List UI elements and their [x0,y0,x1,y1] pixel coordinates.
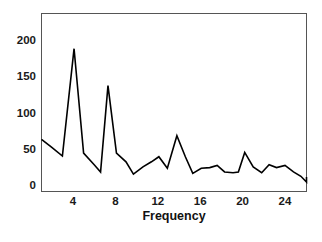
x-axis-title: Frequency [142,209,205,223]
x-tick-label-20: 20 [236,195,249,207]
chart-figure: 200 150 100 50 0 4 8 12 16 20 Frequency … [0,0,322,242]
y-tick-label-0: 0 [10,179,36,191]
x-tick-label-8: 8 [112,195,118,207]
x-tick-label-24: 24 [279,195,292,207]
y-tick-label-200: 200 [10,34,36,46]
x-tick-label-12: 12 [151,195,164,207]
y-tick-label-150: 150 [10,70,36,82]
x-tick-label-4: 4 [70,195,76,207]
y-tick-label-100: 100 [10,107,36,119]
x-tick-label-16: 16 [194,195,207,207]
y-tick-label-50: 50 [10,143,36,155]
